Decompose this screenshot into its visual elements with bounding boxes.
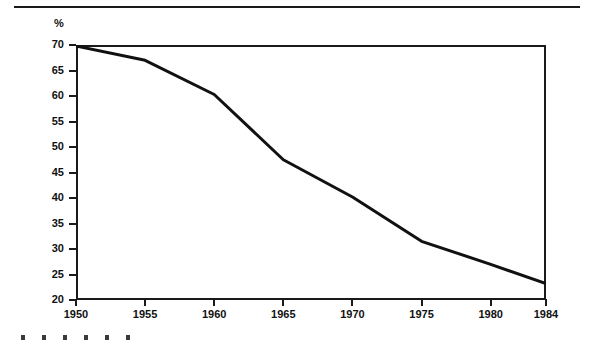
x-tick-label: 1960	[191, 309, 237, 320]
x-tick-label: 1980	[468, 309, 514, 320]
x-tick-label: 1970	[329, 309, 375, 320]
y-tick-mark	[69, 223, 76, 225]
y-tick-label: 65	[38, 65, 64, 76]
y-tick-label: 25	[38, 269, 64, 280]
x-tick-label: 1950	[53, 309, 99, 320]
y-tick-mark	[69, 197, 76, 199]
x-tick-mark	[490, 299, 492, 306]
page-top-rule	[14, 6, 580, 8]
y-tick-label: 60	[38, 90, 64, 101]
chart-figure: % 7065605550454035302520 195019551960196…	[0, 0, 594, 346]
y-tick-mark	[69, 121, 76, 123]
y-tick-label: 45	[38, 167, 64, 178]
y-tick-mark	[69, 70, 76, 72]
y-tick-mark	[69, 95, 76, 97]
y-tick-mark	[69, 44, 76, 46]
x-tick-mark	[75, 299, 77, 306]
x-tick-mark	[213, 299, 215, 306]
x-tick-label: 1955	[122, 309, 168, 320]
y-axis-unit-label: %	[54, 18, 64, 29]
y-tick-mark	[69, 274, 76, 276]
y-tick-label: 55	[38, 116, 64, 127]
scan-artifact-mark	[42, 335, 46, 340]
y-tick-label: 50	[38, 141, 64, 152]
y-tick-label: 70	[38, 39, 64, 50]
scan-artifact-mark	[105, 335, 109, 340]
x-tick-label: 1975	[399, 309, 445, 320]
y-tick-label: 30	[38, 243, 64, 254]
y-tick-mark	[69, 146, 76, 148]
x-tick-label: 1984	[523, 309, 569, 320]
x-tick-mark	[351, 299, 353, 306]
x-tick-mark	[144, 299, 146, 306]
x-tick-label: 1965	[260, 309, 306, 320]
scan-artifact-mark	[84, 335, 88, 340]
scan-artifact-mark	[126, 335, 130, 340]
x-tick-mark	[421, 299, 423, 306]
scan-artifact-mark	[21, 335, 25, 340]
y-tick-label: 40	[38, 192, 64, 203]
plot-area	[76, 45, 546, 300]
x-tick-mark	[282, 299, 284, 306]
x-tick-mark	[545, 299, 547, 306]
y-tick-mark	[69, 172, 76, 174]
y-tick-label: 35	[38, 218, 64, 229]
scan-artifact-mark	[63, 335, 67, 340]
y-tick-label: 20	[38, 294, 64, 305]
y-tick-mark	[69, 248, 76, 250]
data-series-line	[76, 46, 546, 284]
